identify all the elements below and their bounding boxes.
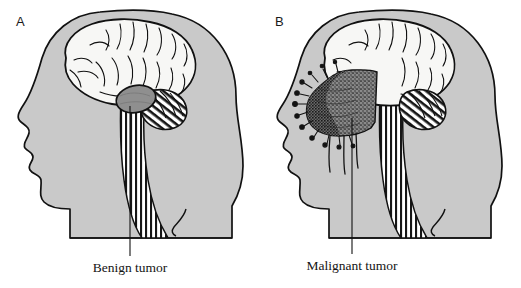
panel-b: B	[275, 10, 502, 273]
panel-a: A	[16, 10, 243, 275]
caption-benign-tumor: Benign tumor	[93, 260, 168, 275]
cerebellum-b	[399, 90, 445, 130]
panel-b-label: B	[275, 14, 284, 29]
caption-malignant-tumor: Malignant tumor	[306, 258, 398, 273]
panel-a-label: A	[16, 14, 25, 29]
brain-tumor-comparison-figure: A	[0, 0, 521, 288]
